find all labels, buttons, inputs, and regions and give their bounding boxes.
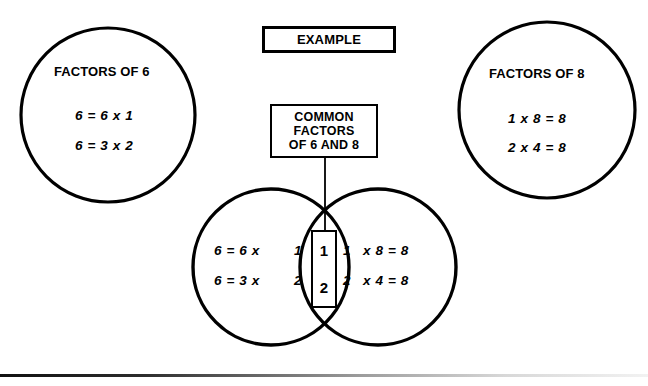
venn-right-partial-2: x 4 = 8: [363, 273, 409, 288]
factors-of-6-equation-1: 6 = 6 x 1: [75, 108, 133, 123]
venn-left-partial-1: 6 = 6 x: [214, 243, 260, 258]
example-title-box: EXAMPLE: [262, 26, 396, 53]
factors-of-8-equation-1: 1 x 8 = 8: [508, 111, 566, 126]
venn-right-partial-1: x 8 = 8: [363, 243, 409, 258]
venn-right-inner-number-1: 1: [343, 243, 351, 258]
worksheet-canvas: EXAMPLE COMMON FACTORS OF 6 AND 8 FACTOR…: [0, 0, 648, 386]
common-factors-line-1: COMMON: [294, 110, 354, 124]
common-factors-callout-box: COMMON FACTORS OF 6 AND 8: [270, 104, 378, 158]
venn-left-partial-2: 6 = 3 x: [214, 273, 260, 288]
venn-geometry: [0, 0, 648, 386]
factors-of-8-equation-2: 2 x 4 = 8: [508, 140, 566, 155]
venn-left-inner-number-2: 2: [294, 273, 302, 288]
venn-left-inner-number-1: 1: [294, 243, 302, 258]
common-factors-line-2: FACTORS: [294, 124, 355, 138]
venn-right-inner-number-2: 2: [343, 273, 351, 288]
factors-of-8-circle: [459, 22, 635, 198]
intersection-value-2: 2: [320, 280, 329, 295]
factors-of-8-heading: FACTORS OF 8: [489, 66, 585, 81]
example-title-label: EXAMPLE: [297, 32, 361, 47]
common-factors-line-3: OF 6 AND 8: [289, 138, 359, 152]
intersection-values-box: 1 2: [311, 230, 337, 308]
factors-of-6-heading: FACTORS OF 6: [54, 64, 150, 79]
factors-of-6-equation-2: 6 = 3 x 2: [75, 138, 133, 153]
intersection-value-1: 1: [320, 243, 329, 258]
footer-divider: [0, 374, 648, 377]
